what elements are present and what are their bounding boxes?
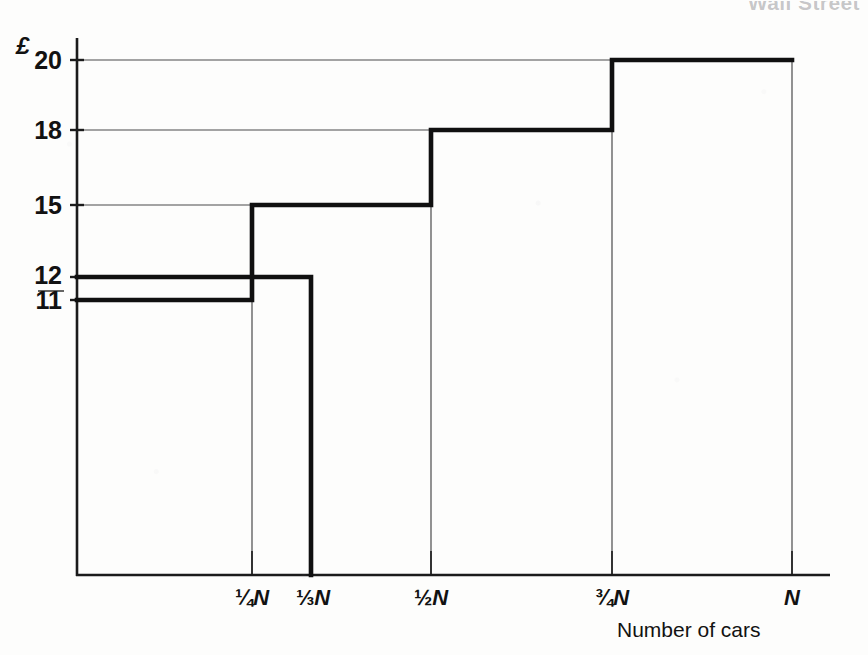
x-axis-title: Number of cars (617, 619, 761, 640)
series-stepped-price-schedule (77, 60, 792, 300)
x-tick-variable-n-2: N (314, 585, 330, 610)
x-tick-label-threequarter-n: ¾N (595, 587, 629, 609)
chart-axes (76, 38, 830, 576)
y-tick-label-15: 15 (2, 193, 62, 218)
y-tick-label-18: 18 (2, 118, 62, 143)
x-tick-variable-n-4: N (613, 585, 629, 610)
x-tick-fraction-third: ⅓ (296, 585, 314, 610)
series-flat-price-line (77, 277, 311, 575)
x-tick-variable-n-5: N (784, 585, 800, 610)
x-tick-fraction-half: ½ (414, 585, 432, 610)
x-tick-label-n: N (784, 587, 800, 609)
x-tick-label-half-n: ½N (414, 587, 448, 609)
chart-figure: Wall Street (0, 0, 868, 655)
y-tick-label-12: 12 (2, 263, 62, 288)
x-tick-fraction-quarter: ¼ (235, 585, 253, 610)
y-tick-label-11: 11 (2, 288, 62, 313)
step-chart-plot (0, 0, 868, 655)
x-tick-variable-n-1: N (253, 585, 269, 610)
x-axis-ticks (252, 551, 792, 575)
x-tick-label-third-n: ⅓N (296, 587, 330, 609)
horizontal-gridlines (77, 60, 612, 205)
y-tick-label-20: 20 (2, 48, 62, 73)
vertical-gridlines (252, 60, 792, 575)
x-tick-label-quarter-n: ¼N (235, 587, 269, 609)
x-tick-fraction-threequarter: ¾ (595, 585, 613, 610)
x-tick-variable-n-3: N (432, 585, 448, 610)
